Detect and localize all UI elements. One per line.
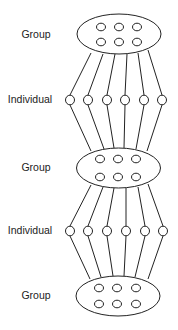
connector-line — [124, 105, 125, 148]
group-individual-diagram: Group Individual Group Individual Group — [0, 0, 178, 330]
connector-line — [148, 50, 162, 95]
connector-line — [88, 54, 103, 95]
connector-line — [136, 105, 144, 149]
connector-line — [148, 184, 163, 226]
group-member-circle — [95, 284, 104, 292]
group-member-circle — [132, 173, 141, 181]
group-ellipse — [77, 14, 161, 54]
connector-line — [88, 236, 101, 277]
individual-node-circle — [159, 226, 168, 236]
group-bottom-node — [76, 276, 160, 316]
connector-line — [135, 236, 145, 277]
label-group-top: Group — [21, 28, 50, 40]
group-member-circle — [96, 173, 105, 181]
connector-line — [107, 188, 114, 226]
individual-node-circle — [158, 95, 167, 105]
individual-node-circle — [84, 226, 93, 236]
connector-line — [70, 53, 91, 95]
individual-node-circle — [103, 95, 112, 105]
group-ellipse — [77, 148, 161, 188]
group-member-circle — [133, 38, 142, 46]
group-member-circle — [95, 300, 104, 308]
individual-1-nodes — [66, 95, 167, 105]
connector-line — [107, 236, 113, 276]
group-member-circle — [114, 173, 123, 181]
group-member-circle — [133, 23, 142, 31]
label-group-bottom: Group — [21, 289, 50, 301]
label-individual-2: Individual — [8, 224, 52, 236]
group-member-circle — [114, 155, 123, 163]
group-member-circle — [132, 300, 141, 308]
group-member-circle — [132, 284, 141, 292]
individual-node-circle — [84, 95, 93, 105]
connector-line — [88, 187, 103, 226]
diagram-nodes — [66, 14, 168, 316]
connector-line — [147, 105, 162, 151]
individual-node-circle — [103, 226, 112, 236]
group-member-circle — [115, 38, 124, 46]
group-top-node — [77, 14, 161, 54]
connector-line — [148, 236, 163, 279]
group-member-circle — [96, 155, 105, 163]
connector-line — [70, 185, 91, 226]
connector-line — [70, 105, 91, 151]
connector-line — [138, 53, 144, 95]
individual-node-circle — [121, 95, 130, 105]
group-ellipse — [76, 276, 160, 316]
group-middle-node — [77, 148, 161, 188]
level-labels: Group Individual Group Individual Group — [8, 28, 52, 301]
label-individual-1: Individual — [8, 93, 52, 105]
group-member-circle — [97, 23, 106, 31]
group-member-circle — [113, 300, 122, 308]
group-member-circle — [113, 284, 122, 292]
connector-line — [138, 187, 145, 226]
connector-line — [124, 236, 126, 276]
connector-line — [107, 54, 115, 95]
group-member-circle — [132, 155, 141, 163]
individual-node-circle — [141, 226, 150, 236]
group-member-circle — [97, 38, 106, 46]
individual-node-circle — [140, 95, 149, 105]
group-member-circle — [115, 23, 124, 31]
individual-node-circle — [66, 226, 75, 236]
individual-node-circle — [122, 226, 131, 236]
individual-node-circle — [66, 95, 75, 105]
label-group-middle: Group — [21, 161, 50, 173]
connector-line — [88, 105, 104, 149]
connector-line — [125, 54, 127, 95]
connector-line — [70, 236, 90, 279]
connector-line — [107, 105, 114, 148]
individual-2-nodes — [66, 226, 168, 236]
